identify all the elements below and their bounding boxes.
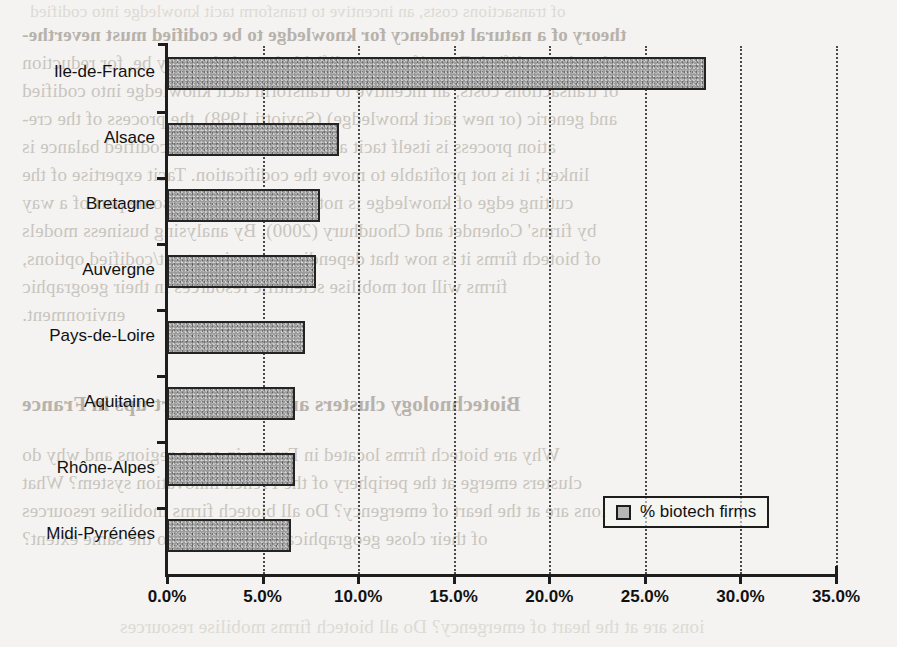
y-axis-top-cap bbox=[158, 43, 168, 46]
y-axis-tick bbox=[157, 375, 166, 378]
x-axis-tick-label: 0.0% bbox=[148, 587, 187, 607]
gridline bbox=[454, 46, 456, 574]
bar bbox=[167, 189, 320, 222]
y-axis-tick-label: Midi-Pyrénées bbox=[46, 524, 155, 544]
x-axis-tick-label: 25.0% bbox=[621, 587, 669, 607]
y-axis-tick bbox=[157, 177, 166, 180]
x-axis-tick-label: 5.0% bbox=[243, 587, 282, 607]
bar bbox=[167, 453, 295, 486]
y-axis-tick-label: Auvergne bbox=[82, 260, 155, 280]
chart-legend: % biotech firms bbox=[603, 496, 769, 528]
bar bbox=[167, 57, 706, 90]
y-axis-tick bbox=[157, 507, 166, 510]
x-axis-tick bbox=[548, 574, 551, 584]
legend-swatch-icon bbox=[616, 505, 631, 520]
y-axis-tick-label: Pays-de-Loire bbox=[49, 326, 155, 346]
x-axis-tick-label: 30.0% bbox=[716, 587, 764, 607]
bar bbox=[167, 123, 339, 156]
y-axis-tick-label: Rhône-Alpes bbox=[57, 458, 155, 478]
y-axis-tick-label: Bretagne bbox=[86, 194, 155, 214]
x-axis-tick bbox=[739, 574, 742, 584]
chart-page: of transactions costs, an incentive to t… bbox=[0, 0, 897, 647]
x-axis-tick-label: 20.0% bbox=[525, 587, 573, 607]
biotech-firms-bar-chart: Ile-de-FranceAlsaceBretagneAuvergnePays-… bbox=[0, 0, 897, 647]
y-axis-tick-label: Aquitaine bbox=[84, 392, 155, 412]
x-axis-tick bbox=[835, 574, 838, 584]
gridline bbox=[549, 46, 551, 574]
bar bbox=[167, 255, 316, 288]
x-axis-tick bbox=[453, 574, 456, 584]
x-axis-tick-label: 35.0% bbox=[812, 587, 860, 607]
bar bbox=[167, 387, 295, 420]
bar bbox=[167, 519, 291, 552]
gridline bbox=[836, 46, 838, 574]
y-axis-tick-labels: Ile-de-FranceAlsaceBretagneAuvergnePays-… bbox=[0, 0, 155, 647]
x-axis-tick bbox=[644, 574, 647, 584]
y-axis-tick bbox=[157, 111, 166, 114]
gridline bbox=[358, 46, 360, 574]
bar bbox=[167, 321, 305, 354]
gridline bbox=[645, 46, 647, 574]
x-axis-tick-label: 15.0% bbox=[430, 587, 478, 607]
y-axis-tick bbox=[157, 441, 166, 444]
y-axis-tick bbox=[157, 309, 166, 312]
x-axis-line bbox=[165, 574, 838, 577]
y-axis-tick-label: Ile-de-France bbox=[54, 62, 155, 82]
gridline bbox=[740, 46, 742, 574]
x-axis-tick bbox=[166, 574, 169, 584]
x-axis-tick bbox=[357, 574, 360, 584]
x-axis-tick bbox=[262, 574, 265, 584]
y-axis-tick-label: Alsace bbox=[104, 128, 155, 148]
x-axis-tick-label: 10.0% bbox=[334, 587, 382, 607]
y-axis-tick bbox=[157, 243, 166, 246]
legend-label: % biotech firms bbox=[640, 502, 756, 522]
